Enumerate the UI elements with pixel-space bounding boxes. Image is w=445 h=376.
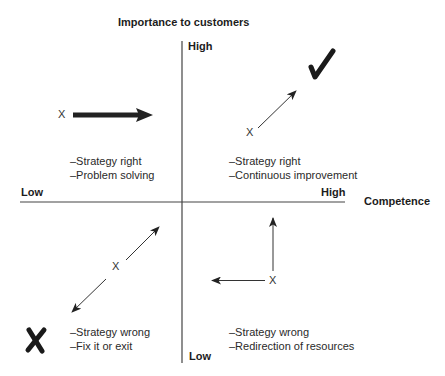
checkmark-icon	[311, 51, 333, 77]
diagonal-down-arrow-icon	[72, 279, 106, 312]
diagonal-up-arrow-icon	[126, 227, 159, 260]
cross-icon	[28, 330, 44, 351]
thick-right-arrow-icon	[73, 108, 153, 122]
diagonal-up-arrow-icon	[258, 91, 296, 128]
matrix-diagram	[0, 0, 445, 376]
